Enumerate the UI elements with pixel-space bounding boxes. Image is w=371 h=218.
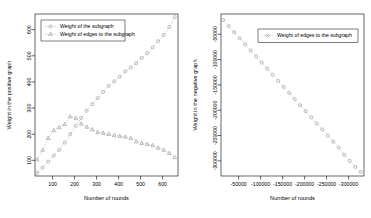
data-point-circle [342, 153, 345, 156]
data-point-circle [232, 31, 235, 34]
data-point-circle [129, 66, 132, 69]
x-tick-label: -150000 [273, 181, 292, 187]
x-tick-label: -100000 [251, 181, 270, 187]
x-axis-title: Number of rounds [84, 195, 129, 201]
data-point-triangle [118, 134, 122, 137]
data-point-triangle [41, 148, 45, 151]
x-tick-label: 100 [48, 181, 57, 187]
y-tick-label: 100 [26, 156, 32, 165]
x-tick-label: -50000 [230, 181, 246, 187]
data-point-circle [271, 73, 274, 76]
y-tick-label: 300 [26, 104, 32, 113]
x-tick-label: -300000 [339, 181, 358, 187]
legend-label: Weight of the subgraph [60, 23, 114, 29]
legend-label: Weight of edges to the subgraph [277, 32, 352, 38]
data-point-triangle [96, 130, 100, 133]
y-tick-label: 400 [26, 77, 32, 86]
data-point-circle [326, 134, 329, 137]
data-point-circle [221, 19, 224, 22]
y-tick-label: -200000 [211, 101, 217, 120]
data-point-circle [102, 90, 105, 93]
data-point-circle [157, 40, 160, 43]
data-point-circle [52, 154, 55, 157]
data-point-circle [243, 43, 246, 46]
legend: Weight of the subgraphWeight of edges to… [41, 20, 135, 41]
y-tick-label: 200 [26, 130, 32, 139]
x-axis-title: Number of rounds [270, 195, 315, 201]
y-tick-label: -150000 [211, 75, 217, 94]
x-tick-label: 500 [136, 181, 145, 187]
data-point-circle [47, 160, 50, 163]
data-point-triangle [85, 125, 89, 128]
data-point-triangle [156, 146, 160, 149]
y-axis-title: Weight in the positive graph [6, 61, 12, 130]
x-tick-label: 400 [114, 181, 123, 187]
data-point-circle [359, 170, 362, 173]
y-tick-label: 500 [26, 51, 32, 60]
data-point-circle [135, 62, 138, 65]
data-point-triangle [57, 126, 61, 129]
data-point-circle [282, 85, 285, 88]
data-point-triangle [167, 151, 171, 154]
x-tick-label: 200 [70, 181, 79, 187]
figure-two-panel-plot: 100200300400500600100200300400500600Numb… [0, 0, 371, 218]
data-point-circle [151, 46, 154, 49]
data-point-circle [298, 104, 301, 107]
data-point-circle [348, 159, 351, 162]
data-point-circle [74, 124, 77, 127]
x-tick-label: 300 [92, 181, 101, 187]
data-point-circle [113, 80, 116, 83]
x-tick-label: 600 [158, 181, 167, 187]
y-tick-label: -300000 [211, 151, 217, 170]
data-point-circle [260, 61, 263, 64]
data-point-triangle [101, 131, 105, 134]
y-tick-label: -100000 [211, 50, 217, 69]
right-panel-canvas: -50000-100000-150000-200000-250000-30000… [186, 0, 371, 218]
y-tick-label: -250000 [211, 126, 217, 145]
legend-label: Weight of edges to the subgraph [60, 31, 135, 37]
y-tick-label: -50000 [211, 26, 217, 42]
data-point-circle [320, 128, 323, 131]
legend: Weight of edges to the subgraph [258, 29, 358, 43]
data-point-circle [309, 116, 312, 119]
data-point-circle [337, 146, 340, 149]
data-point-circle [91, 103, 94, 106]
data-point-circle [287, 91, 290, 94]
y-tick-label: 600 [26, 25, 32, 34]
left-panel-canvas: 100200300400500600100200300400500600Numb… [0, 0, 186, 218]
series-line [37, 116, 175, 159]
series-line [223, 20, 361, 172]
x-tick-label: -200000 [295, 181, 314, 187]
right-panel: -50000-100000-150000-200000-250000-30000… [186, 0, 371, 218]
data-point-circle [254, 55, 257, 58]
series-2 [35, 115, 176, 161]
left-panel: 100200300400500600100200300400500600Numb… [0, 0, 186, 218]
x-tick-label: -250000 [317, 181, 336, 187]
y-axis-title: Weight in the negative graph [192, 59, 198, 130]
data-point-triangle [173, 155, 177, 158]
